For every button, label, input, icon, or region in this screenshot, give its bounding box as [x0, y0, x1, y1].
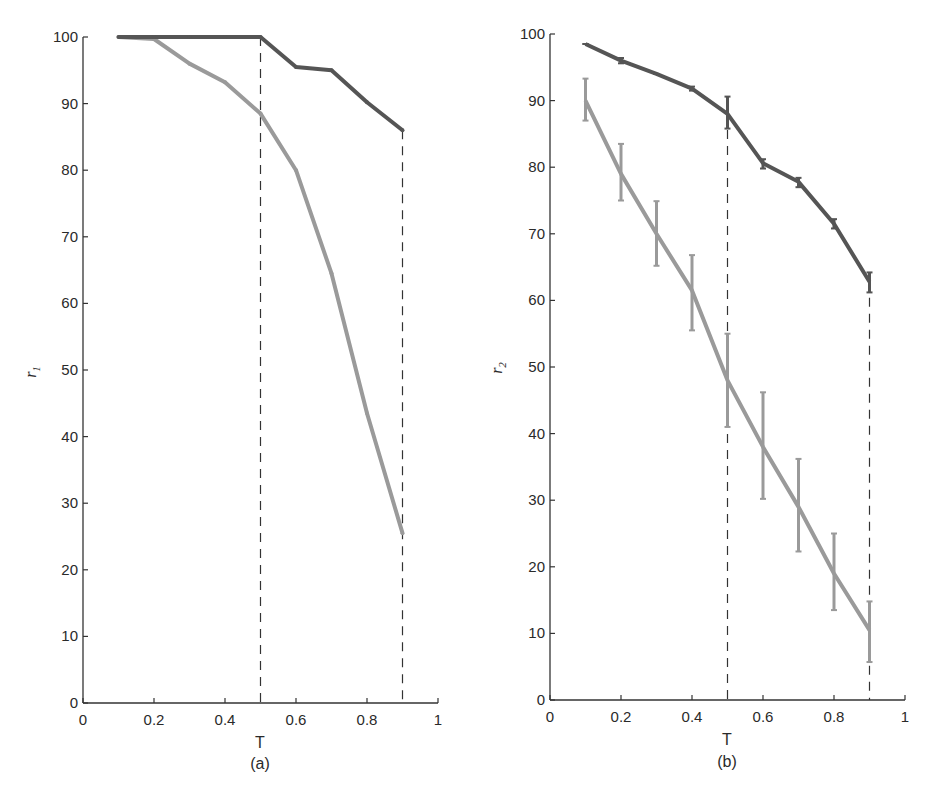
y-tick-label: 70 — [528, 225, 545, 242]
data-point-marker — [294, 168, 298, 172]
x-tick-label: 0.8 — [357, 711, 378, 728]
data-point-marker — [365, 100, 369, 104]
y-tick-label: 80 — [61, 161, 78, 178]
y-tick-label: 60 — [61, 294, 78, 311]
panel-a-ylabel: r1 — [22, 366, 42, 378]
data-point-marker — [259, 35, 263, 39]
data-point-marker — [330, 271, 334, 275]
y-tick-label: 30 — [528, 491, 545, 508]
y-tick-label: 100 — [520, 25, 545, 42]
y-tick-label: 40 — [528, 425, 545, 442]
data-point-marker — [365, 411, 369, 415]
y-tick-label: 10 — [528, 624, 545, 641]
y-tick-label: 60 — [528, 291, 545, 308]
y-tick-label: 90 — [61, 95, 78, 112]
x-tick-label: 0.4 — [682, 708, 703, 725]
y-tick-label: 90 — [528, 92, 545, 109]
y-tick-label: 0 — [70, 694, 78, 711]
y-tick-label: 0 — [537, 691, 545, 708]
x-tick-label: 0 — [79, 711, 87, 728]
y-tick-label: 10 — [61, 627, 78, 644]
x-tick-label: 0 — [546, 708, 554, 725]
panel-a-xlabel: T — [255, 734, 265, 751]
data-point-marker — [117, 35, 121, 39]
y-tick-label: 100 — [53, 28, 78, 45]
x-tick-label: 0.8 — [824, 708, 845, 725]
data-point-marker — [401, 531, 405, 535]
x-tick-label: 0.2 — [611, 708, 632, 725]
chart-panel-a: 010203040506070809010000.20.40.60.81 — [53, 28, 442, 728]
y-tick-label: 20 — [61, 561, 78, 578]
y-tick-label: 50 — [61, 361, 78, 378]
x-tick-label: 1 — [901, 708, 909, 725]
panel-a-caption: (a) — [250, 755, 270, 772]
data-point-marker — [401, 128, 405, 132]
data-point-marker — [223, 80, 227, 84]
x-tick-label: 0.6 — [753, 708, 774, 725]
x-tick-label: 0.4 — [215, 711, 236, 728]
x-tick-label: 0.6 — [286, 711, 307, 728]
y-tick-label: 20 — [528, 558, 545, 575]
y-tick-label: 30 — [61, 494, 78, 511]
figure: 010203040506070809010000.20.40.60.81 010… — [0, 0, 931, 798]
svg-text:r1: r1 — [22, 366, 42, 378]
panel-b-xlabel: T — [722, 731, 732, 748]
data-point-marker — [330, 68, 334, 72]
data-point-marker — [188, 35, 192, 39]
x-tick-label: 0.2 — [144, 711, 165, 728]
data-point-marker — [223, 35, 227, 39]
y-tick-label: 50 — [528, 358, 545, 375]
panel-b-ylabel: r2 — [488, 362, 508, 374]
data-point-marker — [294, 65, 298, 69]
panel-b-caption: (b) — [717, 753, 737, 770]
x-tick-label: 1 — [434, 711, 442, 728]
y-tick-label: 70 — [61, 228, 78, 245]
data-point-marker — [259, 112, 263, 116]
y-tick-label: 40 — [61, 428, 78, 445]
data-point-marker — [188, 62, 192, 66]
y-tick-label: 80 — [528, 158, 545, 175]
svg-text:r2: r2 — [488, 362, 508, 374]
chart-panel-b: 010203040506070809010000.20.40.60.81 — [520, 25, 909, 725]
data-point-marker — [152, 35, 156, 39]
